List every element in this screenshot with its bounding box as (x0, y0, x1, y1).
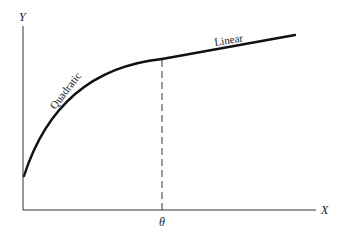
quadratic-curve (24, 59, 162, 176)
threshold-label: θ (159, 215, 165, 229)
diagram-canvas: Y X θ Quadratic Linear (0, 0, 344, 234)
x-axis-label: X (320, 203, 329, 217)
y-axis-label: Y (19, 10, 27, 24)
